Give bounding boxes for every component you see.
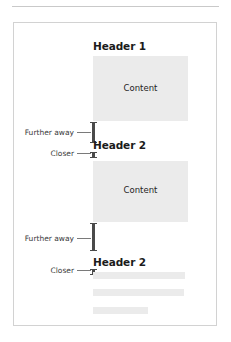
- spacing-measure-below-heading-2: [92, 152, 95, 158]
- leader-line-further-away-2: [77, 238, 91, 239]
- annotation-further-away-2: Further away: [16, 234, 74, 243]
- placeholder-text-line-2: [93, 289, 184, 296]
- spacing-measure-above-heading-3: [92, 223, 95, 251]
- leader-line-further-away-1: [77, 132, 91, 133]
- content-block-2-label: Content: [93, 185, 188, 195]
- leader-line-closer-1: [77, 153, 91, 154]
- annotation-further-away-1: Further away: [16, 128, 74, 137]
- content-block-1: Content: [93, 56, 188, 121]
- content-block-1-label: Content: [93, 83, 188, 93]
- annotation-closer-1: Closer: [24, 149, 74, 158]
- placeholder-text-line-3: [93, 307, 148, 314]
- heading-1: Header 1: [93, 40, 146, 52]
- annotation-closer-2: Closer: [24, 266, 74, 275]
- heading-2-first: Header 2: [93, 139, 146, 151]
- diagram-card: Header 1 Content Further away Header 2 C…: [13, 22, 217, 326]
- content-block-2: Content: [93, 161, 188, 222]
- placeholder-text-line-1: [93, 272, 185, 279]
- leader-line-closer-2: [77, 270, 91, 271]
- top-divider-rule: [12, 6, 219, 7]
- heading-2-second: Header 2: [93, 256, 146, 268]
